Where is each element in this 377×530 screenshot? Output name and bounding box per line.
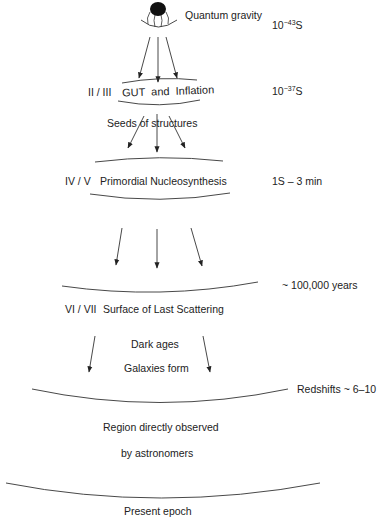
stage-dark-ages: Dark ages	[131, 339, 179, 350]
big-bang-singularity-icon	[141, 2, 177, 27]
stage-numeral-6-7: VI / VII	[65, 304, 97, 315]
stage-numeral-4-5: IV / V	[65, 176, 91, 187]
time-nucleosynthesis: 1S – 3 min	[272, 176, 322, 187]
inflation-label: Inflation	[175, 83, 214, 96]
time-gut: 10−37S	[272, 85, 303, 97]
and-label: and	[151, 85, 170, 98]
gut-label: GUT	[122, 86, 145, 99]
time-base: 10	[272, 19, 284, 31]
stage-nucleosynthesis: Primordial Nucleosynthesis	[100, 176, 227, 187]
time-exponent: −43	[284, 19, 296, 26]
time-base: 10	[272, 85, 284, 97]
stage-by-astronomers: by astronomers	[121, 448, 193, 459]
time-unit: S	[296, 85, 303, 97]
stage-last-scattering: Surface of Last Scattering	[103, 304, 224, 315]
stage-present-epoch: Present epoch	[124, 506, 192, 517]
stage-region-observed: Region directly observed	[103, 422, 219, 433]
time-redshifts: Redshifts ~ 6–10	[297, 384, 376, 395]
time-unit: S	[296, 19, 303, 31]
stage-seeds: Seeds of structures	[107, 118, 197, 129]
stage-numeral-2-3: II / III	[88, 87, 111, 98]
arrow-down-icon	[139, 37, 177, 82]
time-quantum-gravity: 10−43S	[272, 19, 303, 31]
time-100000-years: ~ 100,000 years	[282, 280, 358, 291]
time-exponent: −37	[284, 85, 296, 92]
stage-quantum-gravity: Quantum gravity	[185, 10, 262, 21]
stage-galaxies-form: Galaxies form	[124, 363, 189, 374]
arrow-down-icon	[116, 228, 202, 268]
